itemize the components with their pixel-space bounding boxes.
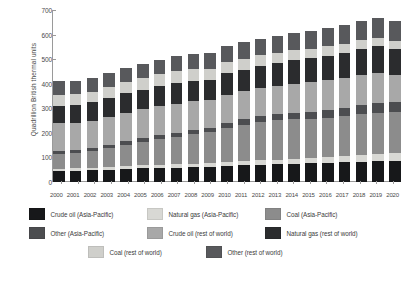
bar-column[interactable] [221,10,233,182]
bar-segment [53,154,65,169]
x-tick-label-2010: 2010 [218,192,230,198]
bar-column[interactable] [87,10,99,182]
bar-column[interactable] [288,10,300,182]
bar-segment [322,163,334,182]
x-tick-label-2000: 2000 [50,192,62,198]
bar-segment [272,120,284,159]
x-tick-mark-2017 [343,181,344,184]
bar-segment [288,84,300,113]
bar-segment [137,78,149,90]
bar-column[interactable] [238,10,250,182]
bar-column[interactable] [70,10,82,182]
bar-column[interactable] [103,10,115,182]
x-tick-label-2009: 2009 [201,192,213,198]
bar-segment [272,63,284,86]
legend-swatch-icon [29,208,45,220]
x-tick-mark-2014 [293,181,294,184]
bar-segment [372,38,384,47]
legend-label: Other (rest of world) [228,249,283,256]
bar-column[interactable] [120,10,132,182]
bar-segment [372,161,384,182]
x-tick-mark-2011 [244,181,245,184]
bar-segment [305,112,317,119]
bar-segment [87,151,99,167]
bar-column[interactable] [171,10,183,182]
bar-segment [372,103,384,112]
bar-segment [255,66,267,88]
legend-item[interactable]: Other (rest of world) [206,246,324,258]
legend-item[interactable]: Coal (rest of world) [88,246,206,258]
x-tick-mark-2005 [144,181,145,184]
bar-segment [154,139,166,165]
bar-segment [389,21,401,41]
bar-column[interactable] [188,10,200,182]
x-tick-label-2006: 2006 [151,192,163,198]
bar-segment [204,69,216,80]
x-tick-label-2011: 2011 [235,192,247,198]
bar-segment [221,62,233,73]
bar-segment [255,39,267,56]
bar-segment [356,114,368,155]
bar-segment [171,168,183,182]
bar-segment [154,60,166,75]
bar-segment [103,170,115,182]
bar-segment [255,88,267,116]
bar-column[interactable] [389,10,401,182]
bar-column[interactable] [53,10,65,182]
bar-column[interactable] [322,10,334,182]
legend-item[interactable]: Natural gas (rest of world) [265,227,383,239]
bar-segment [356,155,368,162]
bar-segment [70,171,82,182]
bar-segment [87,102,99,120]
bar-segment [322,56,334,80]
bar-segment [339,108,351,116]
bar-segment [188,69,200,81]
bar-column[interactable] [255,10,267,182]
bar-segment [70,94,82,105]
y-tick-label-100: 100 [26,154,52,161]
bar-segment [87,170,99,182]
bar-column[interactable] [339,10,351,182]
bar-segment [305,163,317,182]
bar-column[interactable] [272,10,284,182]
legend-item[interactable]: Other (Asia-Pacific) [29,227,147,239]
x-tick-mark-2008 [194,181,195,184]
bar-column[interactable] [137,10,149,182]
bar-segment [389,112,401,154]
bar-segment [70,153,82,168]
x-tick-label-2015: 2015 [302,192,314,198]
legend-item[interactable]: Crude oil (Asia-Pacific) [29,208,147,220]
y-axis-tick-labels: 0100200300400500600700 [18,10,52,182]
bar-segment [188,54,200,69]
legend-swatch-icon [88,246,104,258]
x-tick-label-2014: 2014 [285,192,297,198]
bar-segment [339,25,351,44]
bar-segment [171,137,183,165]
x-tick-mark-2009 [210,181,211,184]
bar-segment [70,81,82,95]
bar-segment [221,166,233,182]
bar-column[interactable] [372,10,384,182]
bar-column[interactable] [154,10,166,182]
x-tick-label-2005: 2005 [134,192,146,198]
legend-row: Other (Asia-Pacific)Crude oil (rest of w… [0,227,411,239]
y-tick-label-0: 0 [26,179,52,186]
bar-column[interactable] [204,10,216,182]
y-tick-label-400: 400 [26,80,52,87]
bar-column[interactable] [356,10,368,182]
legend-item[interactable]: Crude oil (rest of world) [147,227,265,239]
bar-column[interactable] [305,10,317,182]
legend-item[interactable]: Coal (Asia-Pacific) [265,208,383,220]
y-tick-label-200: 200 [26,129,52,136]
bar-segment [322,80,334,110]
x-tick-mark-2007 [177,181,178,184]
bar-segment [204,167,216,182]
y-tick-label-700: 700 [26,7,52,14]
x-tick-label-2007: 2007 [168,192,180,198]
bar-segment [372,113,384,154]
bar-segment [70,105,82,123]
bar-segment [238,42,250,58]
legend-item[interactable]: Natural gas (Asia-Pacific) [147,208,265,220]
bar-segment [188,81,200,102]
bar-segment [288,50,300,60]
